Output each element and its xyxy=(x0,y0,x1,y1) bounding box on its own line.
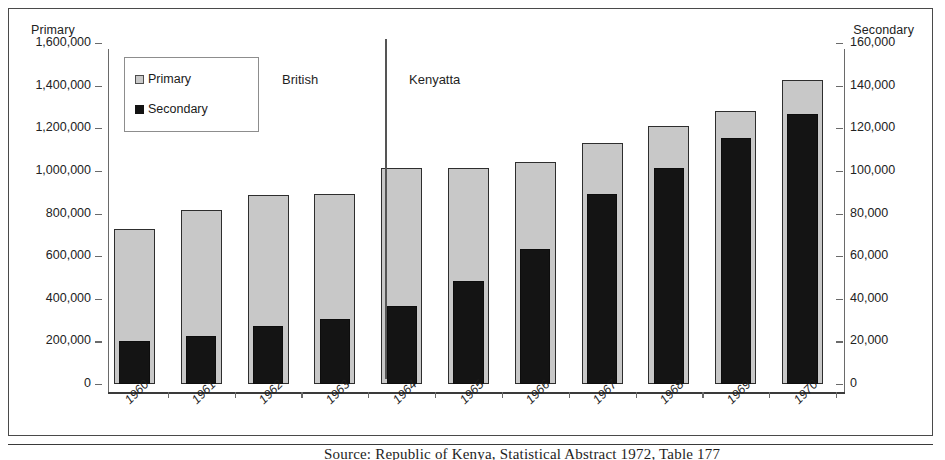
bar-group xyxy=(515,43,556,384)
left-axis-tick xyxy=(95,384,102,385)
left-axis-tick xyxy=(95,86,102,87)
bar-group xyxy=(314,43,355,384)
left-axis-tick-label: 200,000 xyxy=(9,333,91,347)
left-axis-tick xyxy=(95,214,102,215)
left-axis-tick-label: 1,200,000 xyxy=(9,120,91,134)
right-axis-tick-label: 80,000 xyxy=(850,206,888,220)
bar-secondary xyxy=(320,319,350,384)
left-axis-tick xyxy=(95,299,102,300)
x-axis-tick xyxy=(235,392,236,398)
right-axis-tick xyxy=(836,86,843,87)
right-axis-tick xyxy=(836,384,843,385)
x-axis-tick xyxy=(836,392,837,398)
right-axis-tick xyxy=(836,214,843,215)
right-axis-tick xyxy=(836,299,843,300)
left-axis-tick xyxy=(95,43,102,44)
left-axis-tick-label: 1,400,000 xyxy=(9,78,91,92)
source-caption: Source: Republic of Kenya, Statistical A… xyxy=(324,446,939,460)
bar-secondary xyxy=(186,336,216,384)
bar-group xyxy=(582,43,623,384)
x-axis-tick xyxy=(769,392,770,398)
left-axis-tick-label: 0 xyxy=(9,376,91,390)
bar-group xyxy=(448,43,489,384)
left-axis-tick-label: 400,000 xyxy=(9,291,91,305)
era-divider-line xyxy=(385,39,387,379)
legend-item-primary: Primary xyxy=(135,72,191,86)
bar-secondary xyxy=(253,326,283,384)
right-axis-tick xyxy=(836,341,843,342)
chart-page: Primary Secondary 1,600,000160,0001,400,… xyxy=(0,0,945,460)
x-axis-tick xyxy=(435,392,436,398)
chart-legend: Primary Secondary xyxy=(124,57,259,132)
right-axis-tick-label: 60,000 xyxy=(850,248,888,262)
x-axis-tick xyxy=(168,392,169,398)
left-axis-tick-label: 1,600,000 xyxy=(9,35,91,49)
left-axis-tick-label: 600,000 xyxy=(9,248,91,262)
right-axis-tick-label: 120,000 xyxy=(850,120,895,134)
x-axis-tick xyxy=(368,392,369,398)
right-axis-tick-label: 40,000 xyxy=(850,291,888,305)
bar-secondary xyxy=(453,281,483,384)
left-axis-tick xyxy=(95,171,102,172)
x-axis-tick xyxy=(502,392,503,398)
right-axis-tick xyxy=(836,256,843,257)
legend-swatch-primary-icon xyxy=(135,75,144,84)
right-axis-tick xyxy=(836,43,843,44)
bar-group xyxy=(782,43,823,384)
legend-label-primary: Primary xyxy=(148,72,191,86)
left-axis-tick-label: 1,000,000 xyxy=(9,163,91,177)
bar-secondary xyxy=(721,138,751,384)
bar-group xyxy=(715,43,756,384)
legend-swatch-secondary-icon xyxy=(135,105,144,114)
right-axis-tick xyxy=(836,128,843,129)
bar-secondary xyxy=(787,114,817,384)
bar-group xyxy=(381,43,422,384)
x-axis-tick xyxy=(569,392,570,398)
left-axis-tick xyxy=(95,341,102,342)
left-axis-tick xyxy=(95,256,102,257)
right-axis-tick-label: 0 xyxy=(850,376,857,390)
right-axis-tick xyxy=(836,171,843,172)
left-axis-tick-label: 800,000 xyxy=(9,206,91,220)
bar-secondary xyxy=(119,341,149,384)
bar-secondary xyxy=(520,249,550,384)
chart-frame: Primary Secondary 1,600,000160,0001,400,… xyxy=(8,8,933,436)
right-axis-tick-label: 100,000 xyxy=(850,163,895,177)
x-axis-tick xyxy=(301,392,302,398)
bar-group xyxy=(648,43,689,384)
bar-secondary xyxy=(587,194,617,384)
x-axis-tick xyxy=(702,392,703,398)
era-label-british: British xyxy=(282,72,318,87)
bar-secondary xyxy=(387,306,417,384)
era-label-kenyatta: Kenyatta xyxy=(409,72,460,87)
right-axis-tick-label: 160,000 xyxy=(850,35,895,49)
legend-item-secondary: Secondary xyxy=(135,102,208,116)
right-axis-tick-label: 20,000 xyxy=(850,333,888,347)
bar-secondary xyxy=(654,168,684,384)
x-axis-tick xyxy=(636,392,637,398)
left-axis-line xyxy=(108,49,109,394)
right-axis-tick-label: 140,000 xyxy=(850,78,895,92)
left-axis-tick xyxy=(95,128,102,129)
legend-label-secondary: Secondary xyxy=(148,102,208,116)
right-axis-line xyxy=(844,49,845,394)
